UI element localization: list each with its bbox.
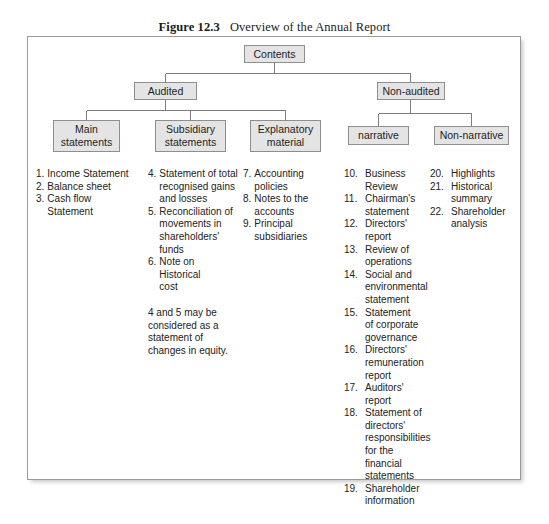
list-item-number: 10. xyxy=(344,168,361,193)
list-item-number: 13. xyxy=(344,244,361,269)
list-item-text: Business Review xyxy=(361,168,417,193)
list-item: 22. Shareholder analysis xyxy=(430,206,508,231)
list-item-text: Chairman's statement xyxy=(361,193,423,218)
node-non-narrative-label: Non-narrative xyxy=(440,129,504,142)
node-main-statements-label-line1: Main xyxy=(75,123,98,136)
list-item: 18. Statement of directors' responsibili… xyxy=(344,407,424,483)
list-item-text: Balance sheet xyxy=(44,181,148,194)
list-narrative: 10. Business Review 11. Chairman's state… xyxy=(344,168,424,508)
list-item-text: Social and environmental statement xyxy=(361,269,423,307)
node-main-statements[interactable]: Main statements xyxy=(53,120,120,152)
list-item: 4. Statement of total recognised gains a… xyxy=(148,168,241,206)
list-item-text: Cash flow Statement xyxy=(44,193,109,218)
figure-page: Figure 12.3Overview of the Annual Report xyxy=(0,0,549,524)
node-non-narrative[interactable]: Non-narrative xyxy=(434,126,509,145)
list-item-number: 18. xyxy=(344,407,361,483)
node-explanatory-material-label-line2: material xyxy=(267,136,304,149)
node-subsidiary-statements-label-line1: Subsidiary xyxy=(166,123,215,136)
list-item-text: Note on Historical cost xyxy=(156,256,217,294)
list-item-number: 11. xyxy=(344,193,361,218)
diagram-frame xyxy=(27,36,521,480)
list-item-number: 3. xyxy=(36,193,44,218)
node-non-audited-label: Non-audited xyxy=(382,85,439,98)
node-subsidiary-statements-label-line2: statements xyxy=(165,136,216,149)
list-item-text: Principal subsidiaries xyxy=(251,218,314,243)
list-item: 7. Accounting policies xyxy=(243,168,327,193)
list-item-text: Reconciliation of movements in sharehold… xyxy=(156,206,241,256)
list-main-statements: 1. Income Statement 2. Balance sheet 3. … xyxy=(36,168,148,218)
list-item: 1. Income Statement xyxy=(36,168,148,181)
list-item-number: 14. xyxy=(344,269,361,307)
list-item-text: Accounting policies xyxy=(251,168,316,193)
list-item-text: Notes to the accounts xyxy=(251,193,316,218)
list-item: 11. Chairman's statement xyxy=(344,193,424,218)
list-item: 14. Social and environmental statement xyxy=(344,269,424,307)
list-item-number: 21. xyxy=(430,181,447,206)
list-item-number: 9. xyxy=(243,218,251,243)
node-non-audited[interactable]: Non-audited xyxy=(377,82,445,100)
list-item-number: 19. xyxy=(344,483,361,508)
list-item: 15. Statement of corporate governance xyxy=(344,307,424,345)
list-item-number: 4. xyxy=(148,168,156,206)
list-item-number: 5. xyxy=(148,206,156,256)
list-item: 8. Notes to the accounts xyxy=(243,193,327,218)
node-main-statements-label-line2: statements xyxy=(61,136,112,149)
list-item-number: 16. xyxy=(344,344,361,382)
list-item-text: Shareholder analysis xyxy=(447,206,508,231)
list-item-number: 6. xyxy=(148,256,156,294)
list-item-number: 12. xyxy=(344,218,361,243)
list-item-number: 17. xyxy=(344,382,361,407)
subsidiary-note: 4 and 5 may be considered as a statement… xyxy=(148,307,240,357)
list-non-narrative: 20. Highlights 21. Historical summary 22… xyxy=(430,168,508,231)
list-item-number: 8. xyxy=(243,193,251,218)
list-item-text: Review of operations xyxy=(361,244,417,269)
node-contents[interactable]: Contents xyxy=(244,45,305,63)
node-narrative[interactable]: narrative xyxy=(348,126,409,145)
node-explanatory-material[interactable]: Explanatory material xyxy=(250,120,321,152)
list-item: 10. Business Review xyxy=(344,168,424,193)
list-item-number: 22. xyxy=(430,206,447,231)
list-item-text: Statement of corporate governance xyxy=(361,307,421,345)
list-item-number: 20. xyxy=(430,168,447,181)
figure-caption: Figure 12.3Overview of the Annual Report xyxy=(0,20,549,35)
list-item: 17. Auditors' report xyxy=(344,382,424,407)
list-subsidiary-statements: 4. Statement of total recognised gains a… xyxy=(148,168,241,357)
list-item-text: Statement of total recognised gains and … xyxy=(156,168,241,206)
figure-number: Figure 12.3 xyxy=(159,20,220,34)
list-item: 9. Principal subsidiaries xyxy=(243,218,327,243)
node-audited-label: Audited xyxy=(148,85,184,98)
list-item: 5. Reconciliation of movements in shareh… xyxy=(148,206,241,256)
list-item: 20. Highlights xyxy=(430,168,508,181)
list-item-text: Directors' report xyxy=(361,218,417,243)
list-item: 16. Directors' remuneration report xyxy=(344,344,424,382)
list-item: 6. Note on Historical cost xyxy=(148,256,241,294)
list-item-number: 15. xyxy=(344,307,361,345)
list-item-text: Income Statement xyxy=(44,168,148,181)
list-item-number: 7. xyxy=(243,168,251,193)
list-item-text: Statement of directors' responsibilities… xyxy=(361,407,423,483)
node-subsidiary-statements[interactable]: Subsidiary statements xyxy=(155,120,226,152)
list-item-text: Directors' remuneration report xyxy=(361,344,424,382)
node-explanatory-material-label-line1: Explanatory xyxy=(258,123,313,136)
list-item: 12. Directors' report xyxy=(344,218,424,243)
list-item: 21. Historical summary xyxy=(430,181,508,206)
node-audited[interactable]: Audited xyxy=(134,82,197,100)
list-explanatory-material: 7. Accounting policies 8. Notes to the a… xyxy=(243,168,327,244)
figure-title: Overview of the Annual Report xyxy=(230,20,391,34)
node-narrative-label: narrative xyxy=(358,129,399,142)
list-item-text: Auditors' report xyxy=(361,382,409,407)
list-item: 2. Balance sheet xyxy=(36,181,148,194)
list-item-text: Highlights xyxy=(447,168,508,181)
list-item: 19. Shareholder information xyxy=(344,483,424,508)
list-item: 13. Review of operations xyxy=(344,244,424,269)
list-item-text: Shareholder information xyxy=(361,483,423,508)
list-item-number: 1. xyxy=(36,168,44,181)
list-item-text: Historical summary xyxy=(447,181,499,206)
node-contents-label: Contents xyxy=(253,48,295,61)
list-item: 3. Cash flow Statement xyxy=(36,193,148,218)
list-item-number: 2. xyxy=(36,181,44,194)
